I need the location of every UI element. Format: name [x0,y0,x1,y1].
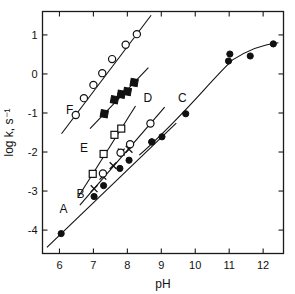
data-point-D [89,170,96,177]
data-point-D [118,125,125,132]
x-tick-label: 11 [223,259,234,271]
chart-plot-area: 678910111210-1-2-3-4pHlog k, s⁻¹ABCDEF [0,0,295,294]
data-point-C [225,58,231,64]
series-label-E: E [80,141,88,155]
data-point-C [227,51,233,57]
x-tick-label: 12 [257,259,269,271]
data-point-A [91,193,97,199]
y-tick-label: -4 [28,224,38,236]
data-point-B [91,185,98,192]
series-line-E [90,68,148,129]
data-point-C [149,139,155,145]
data-point-A [117,165,123,171]
data-point-F [90,81,97,88]
data-point-D [100,150,107,157]
data-point-B-alt [117,149,124,156]
x-tick-label: 7 [90,259,96,271]
chart-figure: 678910111210-1-2-3-4pHlog k, s⁻¹ABCDEF [0,0,295,294]
data-point-E [123,87,131,95]
y-tick-label: -3 [28,185,38,197]
data-point-A [100,182,106,188]
data-point-C [270,41,276,47]
data-point-B-alt [99,170,106,177]
data-point-E [130,78,138,86]
data-point-B-alt [147,120,154,127]
data-point-B-alt [126,141,133,148]
x-tick-label: 10 [189,259,201,271]
x-axis-title: pH [155,277,170,291]
data-point-B [110,162,117,169]
data-point-F [108,56,115,63]
data-point-D [111,131,118,138]
x-tick-label: 6 [56,259,62,271]
y-tick-label: -2 [28,146,38,158]
data-point-F [133,31,140,38]
data-point-C [247,53,253,59]
data-point-A [58,230,64,236]
y-tick-label: -1 [28,107,38,119]
y-axis-title: log k, s⁻¹ [2,108,16,156]
x-tick-label: 8 [124,259,130,271]
y-tick-label: 0 [31,68,37,80]
data-point-F [80,95,87,102]
series-label-C: C [178,91,187,105]
data-point-F [99,70,106,77]
series-line-A [47,123,176,247]
y-tick-label: 1 [31,29,37,41]
series-label-D: D [143,91,152,105]
data-point-A [159,134,165,140]
series-label-F: F [66,103,73,117]
data-point-E [100,110,108,118]
data-point-A [126,157,132,163]
x-tick-label: 9 [158,259,164,271]
data-point-F [122,41,129,48]
data-point-C [183,111,189,117]
series-label-A: A [60,202,68,216]
